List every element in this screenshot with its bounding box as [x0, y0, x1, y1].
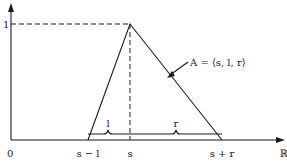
y-tick-label-one: 1: [3, 19, 9, 30]
brace-r: [130, 130, 222, 134]
x-axis-label-reals: ℝ: [280, 148, 287, 159]
origin-label: 0: [7, 148, 13, 159]
fuzzy-number-diagram: 1 0 s − l s s + r ℝ l r A = ⟨s, l, r⟩: [0, 0, 287, 164]
x-tick-s-plus-r: s + r: [210, 148, 235, 159]
x-tick-s-minus-l: s − l: [76, 148, 99, 159]
brace-l: [88, 130, 130, 134]
fuzzy-number-label: A = ⟨s, l, r⟩: [189, 57, 246, 68]
y-axis-arrow-icon: [8, 3, 14, 12]
brace-label-r: r: [174, 118, 179, 129]
brace-label-l: l: [106, 118, 109, 129]
x-tick-s: s: [127, 148, 132, 159]
x-axis-arrow-icon: [276, 137, 285, 143]
